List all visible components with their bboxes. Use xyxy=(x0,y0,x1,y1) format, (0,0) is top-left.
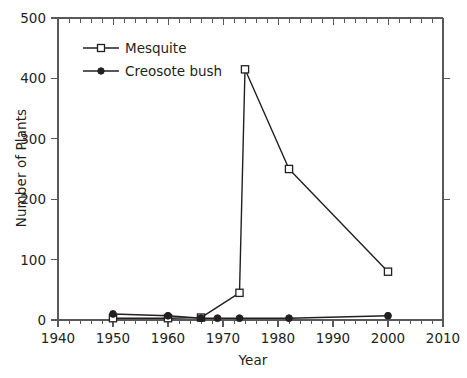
data-point-mesquite-1973 xyxy=(236,289,243,296)
legend-label-mesquite: Mesquite xyxy=(125,40,186,56)
y-tick-label-300: 300 xyxy=(0,131,46,147)
x-tick-label-1940: 1940 xyxy=(28,330,88,346)
x-tick-label-1970: 1970 xyxy=(193,330,253,346)
series-line-mesquite xyxy=(113,69,388,318)
x-tick-label-1990: 1990 xyxy=(303,330,363,346)
data-point-creosote-bush-1960 xyxy=(165,312,172,319)
data-point-creosote-bush-1982 xyxy=(286,315,293,322)
y-tick-label-400: 400 xyxy=(0,70,46,86)
data-point-creosote-bush-1969 xyxy=(214,315,221,322)
chart-figure: Number of Plants Year 500 400 300 200 10… xyxy=(0,0,467,378)
legend-sample-mesquite xyxy=(83,45,119,52)
legend-sample-creosote-bush xyxy=(83,68,119,74)
x-tick-label-1980: 1980 xyxy=(248,330,308,346)
data-point-creosote-bush-1950 xyxy=(110,311,117,318)
x-tick-label-1960: 1960 xyxy=(138,330,198,346)
y-tick-label-100: 100 xyxy=(0,252,46,268)
data-point-creosote-bush-1966 xyxy=(198,315,205,322)
legend-label-creosote-bush: Creosote bush xyxy=(125,63,222,79)
x-axis-title: Year xyxy=(203,352,303,368)
legend-marker-open-square xyxy=(98,45,105,52)
y-tick-label-500: 500 xyxy=(0,10,46,26)
data-point-mesquite-2000 xyxy=(384,268,391,275)
data-point-creosote-bush-1973 xyxy=(236,315,243,322)
x-tick-label-2010: 2010 xyxy=(413,330,467,346)
y-axis-ticks xyxy=(51,18,58,320)
chart-plot-svg xyxy=(0,0,467,378)
y-axis-title: Number of Plants xyxy=(13,103,29,233)
y-tick-label-200: 200 xyxy=(0,191,46,207)
x-axis-minor-ticks-top xyxy=(58,18,443,25)
legend-marker-filled-circle xyxy=(98,68,104,74)
y-tick-label-0: 0 xyxy=(0,312,46,328)
y-axis-ticks-right xyxy=(443,78,450,199)
data-point-mesquite-1982 xyxy=(285,165,292,172)
series-mesquite xyxy=(109,66,391,322)
x-tick-label-2000: 2000 xyxy=(358,330,418,346)
data-series-layer xyxy=(109,66,391,322)
data-point-creosote-bush-2000 xyxy=(385,312,392,319)
legend-samples xyxy=(83,45,119,75)
x-tick-label-1950: 1950 xyxy=(83,330,143,346)
data-point-mesquite-1974 xyxy=(241,66,248,73)
